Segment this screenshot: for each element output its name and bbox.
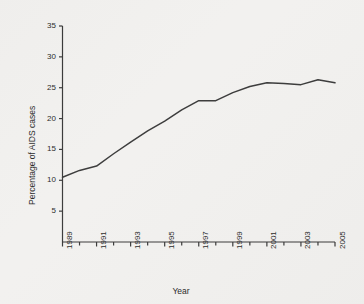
- x-axis-tick-label: 1999: [236, 231, 244, 249]
- x-axis-tick-label: 1997: [202, 231, 210, 249]
- data-series-line: [63, 80, 336, 178]
- x-axis-tick-label: 2003: [304, 231, 312, 249]
- x-axis-tick-label: 1991: [100, 231, 108, 249]
- chart-figure: 5101520253035 19891991199319951997199920…: [0, 0, 364, 304]
- x-axis-tick-label: 1993: [134, 231, 142, 249]
- x-axis-title: Year: [172, 287, 189, 296]
- y-axis-tick-label: 20: [38, 115, 56, 123]
- y-axis-tick-label: 5: [38, 207, 56, 215]
- x-axis-tick-label: 1989: [66, 231, 74, 249]
- x-axis-tick-label: 2005: [339, 231, 347, 249]
- y-axis-tick-label: 35: [38, 22, 56, 30]
- y-axis-tick-label: 15: [38, 145, 56, 153]
- y-axis-tick-label: 25: [38, 84, 56, 92]
- y-axis-title: Percentage of AIDS cases: [28, 106, 37, 205]
- x-axis-tick-label: 2001: [270, 231, 278, 249]
- y-axis-tick-label: 10: [38, 176, 56, 184]
- y-axis-tick-label: 30: [38, 53, 56, 61]
- x-axis-tick-label: 1995: [168, 231, 176, 249]
